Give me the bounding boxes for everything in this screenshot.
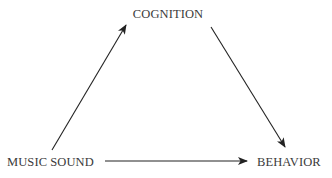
- node-cognition: COGNITION: [133, 7, 203, 21]
- diagram-canvas: COGNITION MUSIC SOUND BEHAVIOR: [0, 0, 332, 178]
- node-music-sound: MUSIC SOUND: [7, 155, 94, 169]
- arrow-music-sound-to-cognition: [52, 25, 126, 150]
- node-behavior: BEHAVIOR: [257, 155, 321, 169]
- flow-diagram: COGNITION MUSIC SOUND BEHAVIOR: [0, 0, 332, 178]
- arrow-cognition-to-behavior: [211, 27, 285, 147]
